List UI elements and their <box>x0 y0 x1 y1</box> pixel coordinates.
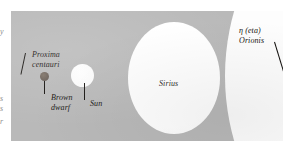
label-proxima-centauri-line1: Proxima <box>32 50 60 60</box>
leader-line-brown-dwarf <box>44 81 45 94</box>
label-brown-dwarf-line2: dwarf <box>51 103 73 113</box>
diagram-panel: Proxima centauri Brown dwarf Sun Sirius … <box>11 11 283 141</box>
label-eta-orionis: η (eta) Orionis <box>239 26 264 45</box>
star-brown-dwarf <box>40 72 49 81</box>
star-sirius <box>128 22 220 134</box>
leader-line-proxima-centauri <box>20 53 26 75</box>
label-brown-dwarf: Brown dwarf <box>51 93 73 112</box>
label-eta-orionis-line1: η (eta) <box>239 26 264 36</box>
margin-text-fragment: r <box>0 117 7 126</box>
label-proxima-centauri-line2: centauri <box>32 60 60 70</box>
leader-line-sun <box>84 83 85 100</box>
label-sun: Sun <box>90 99 102 109</box>
label-eta-orionis-line2: Orionis <box>239 36 264 46</box>
margin-text-fragment: s <box>0 94 8 103</box>
label-brown-dwarf-line1: Brown <box>51 93 73 103</box>
margin-text-fragment: s <box>0 104 8 113</box>
label-sirius: Sirius <box>159 79 178 89</box>
stellar-size-comparison-figure: Proxima centauri Brown dwarf Sun Sirius … <box>0 0 283 153</box>
label-proxima-centauri: Proxima centauri <box>32 50 60 69</box>
star-sun <box>71 64 94 87</box>
margin-text-fragment: y <box>0 27 9 36</box>
